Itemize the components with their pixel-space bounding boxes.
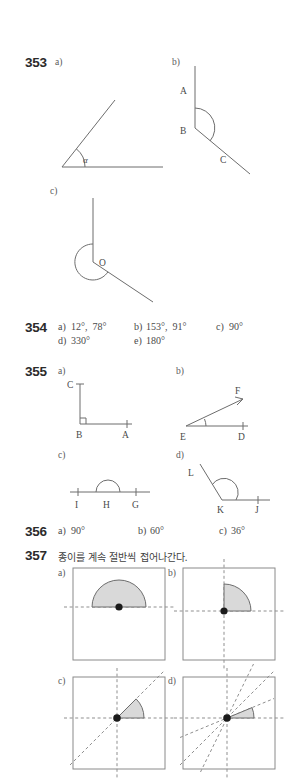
figure-355c-label-I: I [75, 500, 78, 510]
problem-number-355: 355 [25, 364, 47, 379]
figure-353a-angle-label: α [83, 155, 88, 165]
problem-number-354: 354 [25, 320, 47, 335]
figure-355d: L K J [178, 458, 278, 516]
problem-357-part-c-label: c) [58, 676, 65, 686]
figure-353b-label-C: C [220, 155, 226, 165]
answer-356-c-label: c) [219, 525, 227, 536]
problem-357-prompt: 종이를 계속 절반씩 접어나간다. [58, 549, 188, 564]
figure-353b: A B C [170, 62, 280, 177]
figure-355c-label-G: G [132, 500, 139, 510]
problem-353-part-a-label: a) [55, 57, 62, 67]
figure-355b-label-F: F [235, 386, 240, 396]
answer-354-c-label: c) [216, 321, 224, 332]
answer-354-e-label: e) [134, 335, 142, 346]
figure-355b-label-D: D [238, 432, 245, 442]
figure-355d-label-L: L [188, 468, 194, 478]
figure-355b-label-E: E [180, 432, 186, 442]
answer-354-d-label: d) [58, 335, 66, 346]
figure-357a [72, 567, 166, 661]
answer-356-c-value: 36° [231, 525, 245, 536]
figure-355d-label-K: K [217, 505, 224, 515]
problem-number-357: 357 [25, 548, 47, 563]
answer-354-b-value: 153°, 91° [146, 321, 187, 332]
problem-357-part-d-label: d) [168, 676, 176, 686]
answer-356-b-value: 60° [150, 525, 164, 536]
answer-354-c-value: 90° [229, 321, 243, 332]
problem-355-part-b-label: b) [176, 366, 184, 376]
figure-353a: α [55, 95, 170, 180]
figure-355a: C B A [58, 376, 153, 444]
problem-357-part-a-label: a) [58, 568, 65, 578]
figure-355a-label-C: C [67, 380, 73, 390]
answer-354-a-value: 12°, 78° [71, 321, 107, 332]
answer-354-d-value: 330° [71, 335, 90, 346]
answer-356-a-label: a) [58, 525, 66, 536]
figure-355d-label-J: J [255, 505, 259, 515]
problem-357-part-b-label: b) [168, 568, 176, 578]
figure-355c: I H G [58, 470, 163, 515]
answer-356-a-value: 90° [71, 525, 85, 536]
figure-357d [182, 676, 276, 770]
answer-354-a-label: a) [58, 321, 66, 332]
figure-353c-label-O: O [99, 258, 106, 268]
figure-357b [182, 567, 276, 661]
figure-353c: O [55, 194, 170, 304]
answer-354-b-label: b) [134, 321, 142, 332]
figure-355c-label-H: H [103, 500, 110, 510]
problem-355-part-a-label: a) [58, 366, 65, 376]
figure-353b-label-B: B [180, 126, 186, 136]
answer-356-b-label: b) [138, 525, 146, 536]
problem-number-356: 356 [25, 524, 47, 539]
problem-355-part-c-label: c) [58, 450, 65, 460]
figure-355a-label-B: B [76, 430, 82, 440]
figure-353b-label-A: A [180, 86, 187, 96]
figure-355a-label-A: A [122, 430, 129, 440]
answer-354-e-value: 180° [146, 335, 165, 346]
problem-number-353: 353 [25, 55, 47, 70]
figure-357c [72, 676, 166, 770]
figure-355b: E D F [178, 386, 273, 444]
worksheet-page: 353 a) b) c) α A B C O 354 a) 1 [0, 0, 286, 780]
